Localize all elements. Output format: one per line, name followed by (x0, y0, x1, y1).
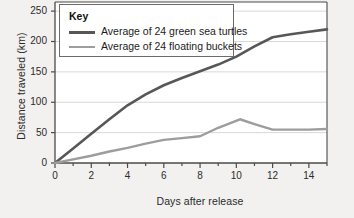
legend-label-buckets: Average of 24 floating buckets (101, 40, 242, 52)
x-tick-label: 8 (190, 170, 210, 181)
x-tick-label: 14 (299, 170, 319, 181)
x-tick-label: 4 (118, 170, 138, 181)
y-tick-label: 100 (21, 96, 47, 107)
x-tick-label: 0 (45, 170, 65, 181)
y-tick-label: 0 (21, 157, 47, 168)
x-axis-title: Days after release (120, 195, 280, 207)
y-tick-label: 50 (21, 127, 47, 138)
legend-swatch-turtles (69, 31, 95, 34)
x-tick-label: 10 (226, 170, 246, 181)
chart-legend: Key Average of 24 green sea turtles Aver… (59, 4, 234, 57)
y-tick-label: 150 (21, 66, 47, 77)
legend-swatch-buckets (69, 46, 95, 48)
y-tick-label: 250 (21, 5, 47, 16)
y-tick-label: 200 (21, 35, 47, 46)
line-chart: Distance traveled (km) Days after releas… (0, 0, 354, 218)
legend-title: Key (69, 10, 88, 22)
legend-label-turtles: Average of 24 green sea turtles (101, 25, 247, 37)
x-tick-label: 12 (263, 170, 283, 181)
x-tick-label: 2 (81, 170, 101, 181)
x-tick-label: 6 (154, 170, 174, 181)
